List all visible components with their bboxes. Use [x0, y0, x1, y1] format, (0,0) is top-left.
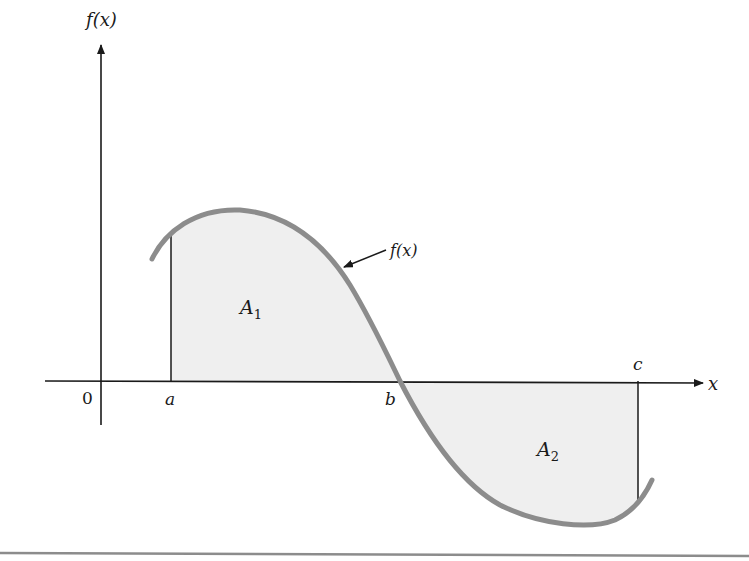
bottom-rule [0, 553, 749, 556]
region-a1-fill [171, 210, 400, 381]
point-c-label: c [633, 354, 643, 374]
point-b-label: b [385, 389, 396, 409]
region-a1-subscript: 1 [254, 307, 262, 322]
region-a2-name: A [535, 438, 551, 460]
y-axis-label: f(x) [84, 9, 117, 30]
region-a2-fill [400, 381, 638, 525]
point-a-label: a [165, 389, 175, 409]
curve-label: f(x) [389, 241, 417, 260]
origin-label: 0 [82, 388, 93, 408]
region-a2-subscript: 2 [551, 449, 559, 464]
area-diagram: f(x) x 0 a b c f(x) A1 A2 [0, 0, 749, 561]
x-axis-label: x [708, 373, 718, 394]
curve-label-arrow [344, 250, 386, 267]
region-a1-name: A [238, 296, 254, 318]
